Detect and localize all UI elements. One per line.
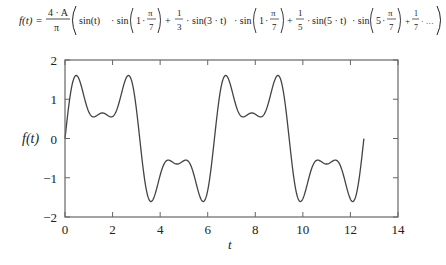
term1-n: 1 [136, 15, 141, 26]
svg-text:· sin: · sin [111, 15, 129, 26]
plus-sign: + [165, 15, 171, 26]
y-tick-label: 2 [51, 53, 58, 68]
term3-coef-num: 1 [298, 8, 303, 18]
prefactor-denominator: π [54, 22, 59, 33]
plus-sign: + [405, 16, 410, 26]
formula-lhs: f(t) = [19, 14, 43, 27]
plot-axes: 02468101214210−1−2 [43, 53, 405, 237]
term4-coef-den: 7 [414, 23, 418, 32]
x-tick-label: 14 [392, 222, 406, 237]
x-tick-label: 8 [252, 222, 259, 237]
term3-n: 5 [376, 15, 381, 26]
svg-text:·: · [307, 15, 310, 26]
pi-num: π [388, 8, 393, 18]
svg-text:· sin: · sin [234, 15, 252, 26]
x-tick-label: 4 [157, 222, 164, 237]
prefactor-numerator: 4 · A [48, 7, 69, 18]
y-tick-label: 0 [51, 132, 58, 147]
y-tick-label: −1 [43, 171, 57, 186]
x-tick-label: 6 [204, 222, 211, 237]
term3-sin: sin(5 · t) [312, 15, 346, 27]
pi-den: 7 [389, 22, 394, 32]
svg-text:·: · [142, 15, 145, 26]
y-tick-label: 1 [51, 92, 58, 107]
svg-text:·: · [186, 15, 189, 26]
term2-coef-num: 1 [177, 8, 182, 18]
x-tick-label: 12 [344, 222, 357, 237]
term2-n: 1 [259, 15, 264, 26]
x-tick-label: 2 [109, 222, 116, 237]
x-axis-label: t [228, 237, 232, 252]
data-line [65, 75, 364, 201]
x-tick-label: 10 [296, 222, 309, 237]
plus-sign: + [287, 15, 293, 26]
pi-den: 7 [149, 22, 154, 32]
x-tick-label: 0 [62, 222, 69, 237]
svg-text:·: · [382, 15, 385, 26]
svg-text:· sin: · sin [352, 15, 370, 26]
term1-sin: sin(t) [79, 15, 100, 27]
pi-num: π [271, 8, 276, 18]
term2-coef-den: 3 [177, 22, 182, 32]
term3-coef-den: 5 [298, 22, 303, 32]
pi-den: 7 [272, 22, 277, 32]
term4-coef-num: 1 [414, 9, 418, 18]
y-axis-label: f(t) [22, 131, 39, 147]
term2-sin: sin(3 · t) [192, 15, 226, 27]
svg-text:·: · [265, 15, 268, 26]
chart: 02468101214210−1−2 f(t) t [0, 40, 446, 265]
formula: f(t) = 4 · A π sin(t) · sin 1 · π 7 + 1 … [0, 0, 446, 40]
pi-num: π [148, 8, 153, 18]
svg-text:· …: · … [421, 17, 434, 26]
y-tick-label: −2 [43, 210, 57, 225]
